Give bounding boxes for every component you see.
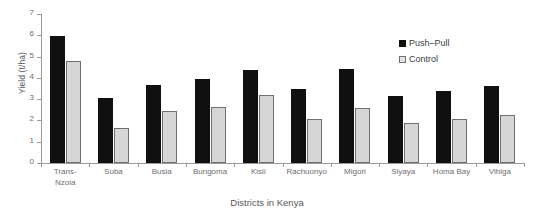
bar-group xyxy=(50,14,81,163)
bar-push-pull xyxy=(291,89,306,164)
y-tick: 1 xyxy=(37,142,41,143)
x-axis-label-line: Migori xyxy=(331,167,379,178)
y-tick-label: 7 xyxy=(30,8,34,17)
y-tick-label: 0 xyxy=(30,157,34,166)
bar-group xyxy=(436,14,467,163)
x-axis-label: Migori xyxy=(331,167,379,178)
bar-control xyxy=(66,61,81,163)
bar-control xyxy=(307,119,322,163)
x-axis-label-line: Busia xyxy=(138,167,186,178)
x-axis-label-line: Trans- xyxy=(41,167,89,178)
bar-push-pull xyxy=(484,86,499,163)
y-tick-label: 3 xyxy=(30,93,34,102)
y-tick: 7 xyxy=(37,14,41,15)
y-tick: 5 xyxy=(37,57,41,58)
plot-area: 01234567 xyxy=(41,14,524,163)
bar-group xyxy=(243,14,274,163)
bar-push-pull xyxy=(50,36,65,163)
bar-push-pull xyxy=(339,69,354,163)
x-axis-label: Kisii xyxy=(234,167,282,178)
bar-group xyxy=(484,14,515,163)
x-axis-label-line: Bungoma xyxy=(186,167,234,178)
y-tick: 6 xyxy=(37,35,41,36)
legend-label-control: Control xyxy=(409,54,438,64)
y-tick-label: 1 xyxy=(30,136,34,145)
y-tick-label: 5 xyxy=(30,51,34,60)
y-tick-label: 6 xyxy=(30,29,34,38)
y-tick: 3 xyxy=(37,99,41,100)
bar-push-pull xyxy=(388,96,403,163)
bar-push-pull xyxy=(146,85,161,163)
x-tick xyxy=(524,163,525,167)
legend-label-push-pull: Push–Pull xyxy=(409,38,450,48)
legend-item-control: Control xyxy=(399,54,450,64)
bar-control xyxy=(404,123,419,163)
bar-group xyxy=(388,14,419,163)
bar-group xyxy=(195,14,226,163)
x-axis-label-line: Siyaya xyxy=(379,167,427,178)
bar-control xyxy=(114,128,129,163)
y-axis-title: Yield (t/ha) xyxy=(17,18,27,128)
y-axis-line xyxy=(41,14,42,163)
y-tick-label: 4 xyxy=(30,72,34,81)
x-axis-label: Busia xyxy=(138,167,186,178)
bar-chart: Yield (t/ha) 01234567 Trans-NzoiaSubaBus… xyxy=(0,0,534,222)
bar-group xyxy=(146,14,177,163)
y-tick: 4 xyxy=(37,78,41,79)
bar-push-pull xyxy=(436,91,451,163)
x-axis-label: Suba xyxy=(89,167,137,178)
y-tick-label: 2 xyxy=(30,114,34,123)
bar-control xyxy=(162,111,177,163)
bar-control xyxy=(452,119,467,163)
bar-group xyxy=(98,14,129,163)
bar-control xyxy=(500,115,515,163)
bar-push-pull xyxy=(243,70,258,163)
x-axis-label: Trans-Nzoia xyxy=(41,167,89,188)
bar-control xyxy=(259,95,274,163)
legend-swatch-open-square-icon xyxy=(399,56,406,63)
y-tick: 2 xyxy=(37,120,41,121)
x-axis-label-line: Homa Bay xyxy=(427,167,475,178)
bar-push-pull xyxy=(98,98,113,163)
x-axis-title: Districts in Kenya xyxy=(0,197,534,208)
x-axis-label: Homa Bay xyxy=(427,167,475,178)
x-axis-label-line: Rachuonyo xyxy=(283,167,331,178)
bar-group xyxy=(339,14,370,163)
bar-control xyxy=(211,107,226,163)
x-axis-label-line: Suba xyxy=(89,167,137,178)
x-axis-label-line: Nzoia xyxy=(41,178,89,189)
x-axis-label: Siyaya xyxy=(379,167,427,178)
x-axis-label: Rachuonyo xyxy=(283,167,331,178)
legend-item-push-pull: Push–Pull xyxy=(399,38,450,48)
bar-control xyxy=(355,108,370,163)
x-axis-label-line: Kisii xyxy=(234,167,282,178)
x-axis-label: Vihiga xyxy=(476,167,524,178)
x-axis-label-line: Vihiga xyxy=(476,167,524,178)
bar-group xyxy=(291,14,322,163)
legend-swatch-filled-square-icon xyxy=(399,40,406,47)
legend: Push–Pull Control xyxy=(399,38,450,70)
x-axis-label: Bungoma xyxy=(186,167,234,178)
bar-push-pull xyxy=(195,79,210,163)
